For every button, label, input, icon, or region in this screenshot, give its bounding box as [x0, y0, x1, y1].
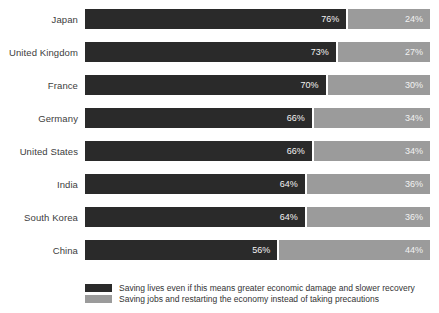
chart-row: India64%36% [0, 174, 439, 194]
legend-item-saving-lives: Saving lives even if this means greater … [85, 283, 439, 293]
chart-rows: Japan76%24%United Kingdom73%27%France70%… [0, 0, 439, 260]
category-label: Japan [0, 14, 85, 25]
value-label-saving-jobs: 34% [405, 146, 430, 156]
legend-swatch-saving-jobs [85, 295, 112, 303]
chart-row: Japan76%24% [0, 9, 439, 29]
bar-track: 66%34% [85, 108, 430, 128]
value-label-saving-jobs: 24% [405, 14, 430, 24]
category-label: United States [0, 146, 85, 157]
bar-track: 66%34% [85, 141, 430, 161]
chart-row: France70%30% [0, 75, 439, 95]
chart-row: United Kingdom73%27% [0, 42, 439, 62]
bar-segment-saving-jobs: 24% [348, 9, 430, 29]
value-label-saving-lives: 76% [321, 14, 346, 24]
value-label-saving-lives: 56% [252, 245, 277, 255]
chart-legend: Saving lives even if this means greater … [85, 283, 439, 304]
category-label: South Korea [0, 212, 85, 223]
bar-track: 64%36% [85, 174, 430, 194]
bar-segment-saving-lives: 64% [85, 174, 305, 194]
bar-segment-saving-lives: 73% [85, 42, 336, 62]
value-label-saving-jobs: 27% [405, 47, 430, 57]
value-label-saving-jobs: 44% [405, 245, 430, 255]
bar-track: 76%24% [85, 9, 430, 29]
bar-track: 64%36% [85, 207, 430, 227]
bar-segment-saving-jobs: 27% [338, 42, 430, 62]
bar-segment-saving-jobs: 36% [307, 174, 430, 194]
category-label: China [0, 245, 85, 256]
chart-row: United States66%34% [0, 141, 439, 161]
chart-row: South Korea64%36% [0, 207, 439, 227]
bar-segment-saving-lives: 70% [85, 75, 326, 95]
stacked-bar-chart: Japan76%24%United Kingdom73%27%France70%… [0, 0, 439, 313]
value-label-saving-lives: 66% [287, 113, 312, 123]
bar-segment-saving-lives: 66% [85, 141, 312, 161]
legend-label-saving-lives: Saving lives even if this means greater … [119, 283, 415, 293]
value-label-saving-lives: 66% [287, 146, 312, 156]
value-label-saving-lives: 64% [280, 212, 305, 222]
bar-track: 73%27% [85, 42, 430, 62]
category-label: France [0, 80, 85, 91]
chart-row: Germany66%34% [0, 108, 439, 128]
value-label-saving-lives: 73% [311, 47, 336, 57]
value-label-saving-jobs: 36% [405, 212, 430, 222]
category-label: United Kingdom [0, 47, 85, 58]
bar-segment-saving-jobs: 34% [314, 141, 430, 161]
value-label-saving-jobs: 30% [405, 80, 430, 90]
legend-label-saving-jobs: Saving jobs and restarting the economy i… [119, 294, 379, 304]
bar-segment-saving-lives: 76% [85, 9, 346, 29]
bar-segment-saving-jobs: 30% [328, 75, 431, 95]
chart-row: China56%44% [0, 240, 439, 260]
bar-segment-saving-jobs: 36% [307, 207, 430, 227]
bar-segment-saving-lives: 56% [85, 240, 277, 260]
value-label-saving-jobs: 34% [405, 113, 430, 123]
bar-segment-saving-lives: 66% [85, 108, 312, 128]
value-label-saving-lives: 70% [300, 80, 325, 90]
value-label-saving-lives: 64% [280, 179, 305, 189]
bar-track: 56%44% [85, 240, 430, 260]
bar-track: 70%30% [85, 75, 430, 95]
bar-segment-saving-lives: 64% [85, 207, 305, 227]
value-label-saving-jobs: 36% [405, 179, 430, 189]
legend-item-saving-jobs: Saving jobs and restarting the economy i… [85, 294, 439, 304]
category-label: India [0, 179, 85, 190]
bar-segment-saving-jobs: 34% [314, 108, 430, 128]
category-label: Germany [0, 113, 85, 124]
bar-segment-saving-jobs: 44% [279, 240, 430, 260]
legend-swatch-saving-lives [85, 284, 112, 292]
